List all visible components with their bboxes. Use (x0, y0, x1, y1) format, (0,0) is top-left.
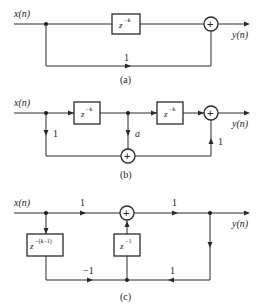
path-arrow-icon (44, 228, 49, 234)
path-arrow-icon (87, 278, 93, 283)
plus-sign-b1: + (207, 107, 213, 119)
output-arrow-icon (244, 111, 250, 116)
plus-sign-a: + (207, 18, 213, 30)
input-label-c: x(n) (13, 197, 31, 209)
delay-mid-base-c: z (119, 241, 124, 251)
diagram-a: x(n) z −k + y(n) 1 (a) (13, 8, 250, 86)
path-arrow-icon (80, 211, 86, 216)
delay-left-base-c: z (29, 241, 34, 251)
path-arrow-icon (68, 111, 74, 116)
signal-flow-diagrams: x(n) z −k + y(n) 1 (a) x(n) z −k z −k + (0, 0, 259, 308)
path-arrow-icon (125, 64, 131, 69)
delay-mid-exp-c: −1 (125, 238, 131, 244)
output-arrow-icon (244, 211, 250, 216)
input-label-a: x(n) (13, 8, 31, 20)
delay2-base-b: z (163, 109, 168, 119)
output-arrow-icon (244, 22, 250, 27)
gain-top-right-c: 1 (172, 197, 177, 208)
caption-c: (c) (120, 291, 131, 303)
plus-sign-c: + (123, 207, 129, 219)
output-label-c: y(n) (231, 218, 249, 230)
plus-sign-b2: + (124, 150, 130, 162)
gain-bottom-right-c: 1 (170, 265, 175, 276)
gain-mid-b: a (135, 128, 140, 139)
delay-left-exp-c: −(k−1) (35, 238, 52, 245)
path-arrow-icon (126, 130, 131, 136)
caption-a: (a) (120, 74, 131, 86)
diagram-c: x(n) 1 + 1 y(n) z −(k−1) −1 z −1 1 (13, 197, 250, 303)
path-arrow-icon (151, 111, 157, 116)
gain-bottom-left-c: −1 (83, 265, 94, 276)
delay-base-a: z (118, 20, 123, 30)
path-arrow-icon (44, 130, 49, 136)
delay1-exp-b: −k (86, 106, 92, 112)
gain-right-b: 1 (218, 136, 223, 147)
delay1-base-b: z (80, 109, 85, 119)
gain-top-left-c: 1 (80, 197, 85, 208)
path-arrow-icon (125, 221, 130, 227)
input-label-b: x(n) (13, 97, 31, 109)
path-arrow-icon (168, 278, 174, 283)
delay2-exp-b: −k (169, 106, 175, 112)
diagram-b: x(n) z −k z −k + y(n) 1 a + 1 (b) (13, 97, 250, 181)
gain-label-a: 1 (124, 52, 129, 63)
path-arrow-icon (208, 242, 213, 248)
right-branch-b (135, 120, 211, 156)
output-label-a: y(n) (231, 29, 249, 41)
path-arrow-icon (172, 211, 178, 216)
delay-exp-a: −k (124, 17, 130, 23)
caption-b: (b) (120, 169, 132, 181)
path-arrow-icon (209, 138, 214, 144)
output-label-b: y(n) (231, 118, 249, 130)
gain-left-b: 1 (53, 128, 58, 139)
path-arrow-icon (198, 111, 204, 116)
